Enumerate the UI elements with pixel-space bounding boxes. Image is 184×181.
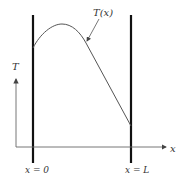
- curve-label: T(x): [93, 7, 113, 18]
- x-axis-label: x: [170, 143, 176, 154]
- temperature-curve: [33, 24, 131, 126]
- y-axis-label: T: [12, 61, 20, 72]
- right-wall-label: x = L: [125, 165, 149, 175]
- diagram-canvas: T(x) T x x = 0 x = L: [0, 0, 184, 181]
- left-wall-label: x = 0: [25, 165, 49, 175]
- curve-label-leader: [87, 19, 99, 41]
